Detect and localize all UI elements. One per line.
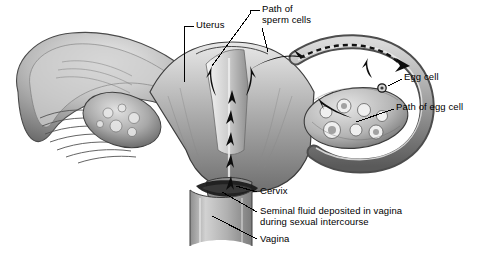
label-vagina: Vagina — [260, 233, 289, 244]
label-egg-path: Path of egg cell — [396, 101, 463, 112]
label-seminal-fluid: Seminal fluid deposited in vagina during… — [260, 205, 402, 227]
anatomical-diagram: Uterus Path of sperm cells Egg cell Path… — [0, 0, 496, 260]
label-uterus: Uterus — [196, 19, 225, 30]
label-egg-cell: Egg cell — [404, 71, 439, 82]
right-ovary — [301, 83, 411, 154]
label-cervix: Cervix — [260, 185, 288, 196]
diagram-canvas — [0, 0, 496, 260]
label-sperm-path: Path of sperm cells — [262, 3, 311, 25]
vagina-canal — [190, 190, 252, 250]
egg-cell-dot — [378, 84, 386, 92]
